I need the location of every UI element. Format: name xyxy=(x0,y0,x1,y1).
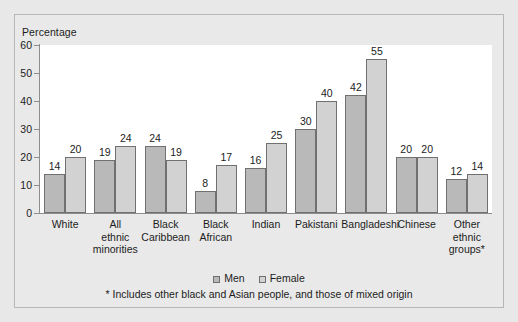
x-axis-category-label-line: Other xyxy=(442,218,492,231)
chart-figure: Percentage 0102030405060 1420White1924Al… xyxy=(0,0,518,322)
x-axis-category-label: White xyxy=(40,218,90,231)
x-axis-category-label-line: ethnic xyxy=(442,231,492,244)
x-axis-category-label: Bangladeshi xyxy=(341,218,391,231)
x-axis-category-label-line: Caribbean xyxy=(140,231,190,244)
y-axis-tick-label: 10 xyxy=(10,179,32,191)
y-axis-tick-mark xyxy=(34,213,39,214)
bar-men xyxy=(245,168,266,213)
bar-men xyxy=(295,129,316,213)
bar-female xyxy=(216,165,237,213)
x-axis-category-label-line: ethnic xyxy=(90,231,140,244)
y-axis-tick-mark xyxy=(34,45,39,46)
y-axis-tick-mark xyxy=(34,73,39,74)
bar-female xyxy=(316,101,337,213)
y-axis-tick-label: 60 xyxy=(10,39,32,51)
bar-female xyxy=(467,174,488,213)
bar-group xyxy=(44,45,86,213)
legend-entry: Female xyxy=(259,272,305,284)
legend-swatch-icon xyxy=(259,276,266,283)
bar-group xyxy=(94,45,136,213)
bar-men xyxy=(44,174,65,213)
x-axis-category-label: Chinese xyxy=(392,218,442,231)
x-axis-category-label-line: minorities xyxy=(90,243,140,256)
x-axis-category-label-line: Chinese xyxy=(392,218,442,231)
legend-label: Men xyxy=(224,272,244,284)
x-axis-category-label: BlackAfrican xyxy=(191,218,241,243)
bar-men xyxy=(345,95,366,213)
chart-footnote: * Includes other black and Asian people,… xyxy=(0,288,518,300)
x-axis-category-label-line: African xyxy=(191,231,241,244)
legend-swatch-icon xyxy=(213,276,220,283)
chart-legend: MenFemale xyxy=(0,272,518,284)
x-axis-category-label-line: White xyxy=(40,218,90,231)
y-axis-tick-mark xyxy=(34,185,39,186)
y-axis-tick-label: 20 xyxy=(10,151,32,163)
x-axis-category-label: Indian xyxy=(241,218,291,231)
y-axis-tick-label: 0 xyxy=(10,207,32,219)
x-axis-category-label: Pakistani xyxy=(291,218,341,231)
bar-men xyxy=(145,146,166,213)
bar-female xyxy=(166,160,187,213)
y-axis-tick-mark xyxy=(34,129,39,130)
bar-group xyxy=(295,45,337,213)
x-axis-category-label: Allethnicminorities xyxy=(90,218,140,256)
legend-label: Female xyxy=(270,272,305,284)
bar-female xyxy=(266,143,287,213)
bar-group xyxy=(446,45,488,213)
x-axis-category-label-line: Black xyxy=(191,218,241,231)
bar-group xyxy=(145,45,187,213)
x-axis-category-label: BlackCaribbean xyxy=(140,218,190,243)
y-axis-tick-label: 30 xyxy=(10,123,32,135)
bar-female xyxy=(366,59,387,213)
legend-entry: Men xyxy=(213,272,244,284)
bar-female xyxy=(417,157,438,213)
bar-men xyxy=(94,160,115,213)
y-axis-tick-mark xyxy=(34,101,39,102)
y-axis-tick-label: 40 xyxy=(10,95,32,107)
y-axis-tick-label: 50 xyxy=(10,67,32,79)
x-axis-category-label-line: Indian xyxy=(241,218,291,231)
x-axis-category-label-line: All xyxy=(90,218,140,231)
bar-men xyxy=(446,179,467,213)
bar-female xyxy=(115,146,136,213)
x-axis-category-label-line: Pakistani xyxy=(291,218,341,231)
x-axis-line xyxy=(39,213,492,214)
bar-female xyxy=(65,157,86,213)
bar-group xyxy=(345,45,387,213)
bar-men xyxy=(195,191,216,213)
bar-group xyxy=(245,45,287,213)
x-axis-category-label-line: Bangladeshi xyxy=(341,218,391,231)
bar-group xyxy=(396,45,438,213)
y-axis-tick-mark xyxy=(34,157,39,158)
x-axis-category-label: Otherethnicgroups* xyxy=(442,218,492,256)
bar-group xyxy=(195,45,237,213)
bar-men xyxy=(396,157,417,213)
x-axis-category-label-line: Black xyxy=(140,218,190,231)
x-axis-category-label-line: groups* xyxy=(442,243,492,256)
